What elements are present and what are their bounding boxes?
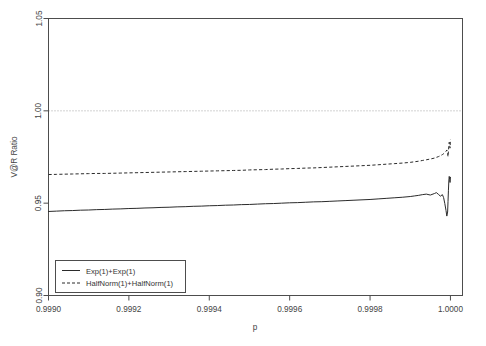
x-tick-label-2: 0.9994	[197, 305, 222, 314]
x-axis-title: p	[253, 323, 258, 332]
y-tick-label-1: 0.95	[35, 195, 44, 211]
var-ratio-line-chart: 0.99900.99920.99940.99960.99981.0000 0.9…	[0, 0, 486, 346]
x-tick-label-1: 0.9992	[116, 305, 141, 314]
legend-label-halfnorm: HalfNorm(1)+HalfNorm(1)	[86, 279, 174, 288]
chart-figure: 0.99900.99920.99940.99960.99981.0000 0.9…	[0, 0, 486, 346]
y-tick-label-2: 1.00	[35, 102, 44, 118]
y-tick-label-3: 1.05	[35, 10, 44, 26]
x-tick-label-3: 0.9996	[277, 305, 302, 314]
chart-legend: Exp(1)+Exp(1) HalfNorm(1)+HalfNorm(1)	[56, 261, 186, 293]
x-tick-label-5: 1.0000	[438, 305, 463, 314]
y-axis-title: V@R Ratio	[10, 136, 19, 178]
x-tick-label-4: 0.9998	[358, 305, 383, 314]
chart-background	[0, 0, 486, 346]
legend-label-exp: Exp(1)+Exp(1)	[86, 267, 136, 276]
y-tick-label-0: 0.90	[35, 287, 44, 303]
x-tick-label-0: 0.9990	[36, 305, 61, 314]
